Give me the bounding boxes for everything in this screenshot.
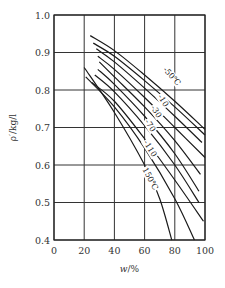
- x-tick-label: 0: [51, 245, 57, 256]
- x-axis-title: w/%: [120, 264, 140, 274]
- x-tick-label: 60: [139, 245, 151, 256]
- x-tick-label: 40: [108, 245, 120, 256]
- curve-label: -50℃: [161, 65, 182, 87]
- y-tick-label: 0.9: [35, 47, 50, 58]
- x-tick-label: 100: [196, 245, 214, 256]
- y-axis-title: ρ′/kg/l: [8, 114, 18, 142]
- y-tick-label: 0.6: [35, 160, 50, 171]
- y-tick-label: 0.7: [35, 122, 50, 133]
- curve-label: 150℃: [141, 166, 160, 192]
- x-tick-label: 20: [78, 245, 90, 256]
- x-tick-label: 80: [169, 245, 181, 256]
- chart: 0204060801000.40.50.60.70.80.91.0-50℃-10…: [0, 0, 225, 288]
- y-tick-label: 0.5: [35, 197, 50, 208]
- y-tick-label: 0.8: [35, 85, 50, 96]
- y-tick-label: 1.0: [35, 10, 50, 21]
- curve-line: [95, 75, 199, 203]
- y-tick-label: 0.4: [35, 235, 50, 246]
